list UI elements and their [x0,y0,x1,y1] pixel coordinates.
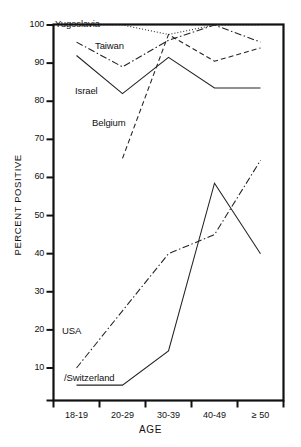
x-axis-title: AGE [0,424,301,435]
y-tick-label: 70 [10,133,44,143]
y-tick-label: 30 [10,286,44,296]
x-tick-label: 30-39 [145,410,193,420]
y-axis-title: PERCENT POSITIVE [12,166,23,256]
axes-group [47,25,284,408]
x-tick-label: 18-19 [53,410,101,420]
series-label-switzerland: /Switzerland [64,372,115,383]
series-line-yugoslavia [77,25,261,35]
series-line-usa [77,160,261,368]
y-tick-label: 10 [10,362,44,372]
x-tick-label: 40-49 [191,410,239,420]
chart-plot-svg [0,0,301,447]
series-label-belgium: Belgium [92,117,126,128]
series-line-israel [77,56,261,94]
series-label-usa: USA [62,325,81,336]
series-line-belgium [123,35,261,159]
series-label-taiwan: Taiwan [95,40,124,51]
plot-frame [54,25,284,401]
y-tick-label: 20 [10,324,44,334]
chart-container: 102030405060708090100 18-1920-2930-3940-… [0,0,301,447]
x-tick-label: 20-29 [99,410,147,420]
y-tick-label: 80 [10,95,44,105]
series-label-yugoslavia: Yugoslavia [55,18,100,29]
series-line-switzerland [77,183,261,385]
series-label-israel: Israel [75,85,98,96]
y-tick-label: 100 [10,19,44,29]
series-group [77,25,261,385]
x-tick-label: ≥ 50 [237,410,285,420]
y-tick-label: 90 [10,57,44,67]
